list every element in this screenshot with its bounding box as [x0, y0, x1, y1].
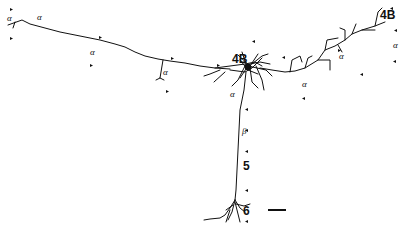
arrowhead-markers [10, 7, 397, 223]
arrowhead [166, 90, 169, 93]
arrowhead [171, 57, 174, 60]
arrowhead [217, 64, 220, 67]
label-alpha: α [163, 68, 168, 77]
arrowhead [10, 8, 13, 11]
arrowhead [245, 108, 248, 111]
label-alpha: α [90, 48, 95, 57]
label-4b-right: 4B [380, 9, 395, 21]
axon-left [8, 20, 230, 69]
arrowhead [99, 36, 102, 39]
arrowhead [245, 189, 248, 192]
arrowhead [282, 56, 285, 59]
neuron-tracing [0, 0, 403, 228]
label-alpha: α [339, 52, 344, 61]
arrowhead [394, 29, 397, 32]
label-alpha: α [302, 80, 307, 89]
arrowhead [393, 60, 396, 63]
label-alpha: α [37, 13, 42, 22]
label-layer-5: 5 [243, 160, 250, 172]
arrowhead [10, 37, 13, 40]
arrowhead [360, 73, 363, 76]
label-alpha: α [7, 14, 12, 23]
label-alpha: α [393, 41, 398, 50]
descending-axon [235, 72, 246, 200]
label-4b-center: 4B [232, 53, 247, 65]
arrowhead [252, 40, 255, 43]
label-beta: β [242, 127, 246, 136]
arrowhead [302, 97, 305, 100]
arrowhead [245, 150, 248, 153]
arrowhead [245, 220, 248, 223]
label-alpha: α [230, 90, 235, 99]
label-layer-6: 6 [243, 205, 250, 217]
arrowhead [90, 64, 93, 67]
